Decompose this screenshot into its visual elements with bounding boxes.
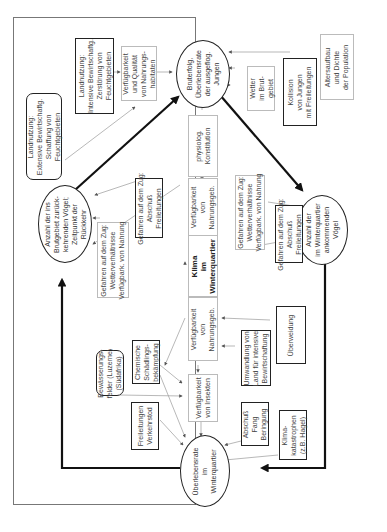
box-land-extensive: Landnutzung: Extensive Bewirtschaftg. Sc… [26, 93, 62, 180]
arriving-label: Anzahl der im Winterquartier ankommenden… [304, 203, 340, 256]
breeding-label: Bruterfolg, Überlebensrate der ausgeflog… [185, 50, 221, 98]
land-conversion-label: Umwandlung von Land für intensive Bewirt… [243, 330, 270, 385]
box-collision: Kollision von Jungen mit Freileitungen [283, 58, 317, 126]
migration-danger-weather-2-label: Gefahren auf dem Zug: Wetterverhältnisse… [237, 174, 264, 252]
box-migration-danger-shoot-2: Gefahren auf dem Zug: Abschuß Freileitun… [275, 205, 303, 263]
box-migration-danger-weather-1: Gefahren auf dem Zug: Wetterverhältnisse… [97, 222, 129, 298]
box-weather-breeding: Wetter im Brut- gebiet [247, 66, 275, 111]
age-structure-label: Altersaufbau und Dichte der Population [324, 44, 351, 89]
box-insects: Verfügbarkeit von Insekten [188, 374, 218, 422]
returning-label: Anzahl der ins Brutgebiet zurück- kehren… [43, 196, 88, 253]
overgrazing-label: Überweidung [287, 314, 296, 355]
ellipse-arriving-birds: Anzahl der im Winterquartier ankommenden… [296, 195, 348, 265]
migration-danger-shoot-1-label: Gefahren auf dem Zug: Abschuß Freileitun… [136, 172, 163, 244]
box-irrigation: Bewässerungs- felder (Luzerne) (Südafrik… [96, 350, 124, 396]
irrigation-label: Bewässerungs- felder (Luzerne) (Südafrik… [97, 348, 124, 397]
box-food-availability-1: Verfügbarkeit von Nahrungsgeb. [188, 178, 218, 236]
migration-danger-weather-1-label: Gefahren auf dem Zug: Wetterverhältnisse… [100, 221, 127, 299]
land-extensive-label: Landnutzung: Extensive Bewirtschaftg. Sc… [26, 98, 62, 174]
insects-label: Verfügbarkeit von Insekten [194, 377, 212, 418]
box-migration-danger-weather-2: Gefahren auf dem Zug: Wetterverhältnisse… [235, 175, 265, 250]
box-physiology: physiolog. Konstitution [188, 115, 218, 177]
food-habitats-label: Verfügbarkeit und Qualität von Nahrungs-… [121, 51, 157, 97]
weather-breeding-label: Wetter im Brut- gebiet [248, 76, 275, 101]
box-land-intensive: Landnutzung: Intensive Bewirtschaftg. Ze… [75, 38, 114, 114]
survival-label: Überlebensrate im Winterquartier [192, 447, 219, 495]
box-land-conversion: Umwandlung von Land für intensive Bewirt… [241, 330, 271, 386]
box-pesticides: Chemische Schädlings- bekämpfung [132, 340, 160, 384]
box-age-structure: Altersaufbau und Dichte der Population [320, 34, 354, 100]
box-overgrazing: Überweidung [276, 306, 306, 364]
power-lines-traffic-label: Freileitungen Verkehrstod [136, 406, 154, 446]
food-availability-1-label: Verfügbarkeit von Nahrungsgeb. [190, 185, 217, 229]
box-food-habitats: Verfügbarkeit und Qualität von Nahrungs-… [121, 46, 157, 101]
climate-winter-label: Klima im Winterquartier [190, 239, 217, 294]
migration-danger-shoot-2-label: Gefahren auf dem Zug: Abschuß Freileitun… [276, 198, 303, 270]
ellipse-breeding-success: Bruterfolg, Überlebensrate der ausgeflog… [176, 40, 230, 108]
pesticides-label: Chemische Schädlings- bekämpfung [133, 343, 160, 382]
box-climate-winter: Klima im Winterquartier [188, 235, 218, 297]
physiology-label: physiolog. Konstitution [194, 128, 212, 165]
climate-catastrophe-label: Klima- katastrophen (z.B. Hagel) [280, 415, 307, 455]
food-availability-2-label: Verfügbarkeit von Nahrungsgeb. [190, 307, 217, 351]
box-migration-danger-shoot-1: Gefahren auf dem Zug: Abschuß Freileitun… [135, 178, 163, 238]
ellipse-returning-birds: Anzahl der ins Brutgebiet zurück- kehren… [38, 185, 92, 263]
land-intensive-label: Landnutzung: Intensive Bewirtschaftg. Ze… [77, 39, 113, 113]
collision-label: Kollision von Jungen mit Freileitungen [287, 66, 314, 118]
box-food-availability-2: Verfügbarkeit von Nahrungsgeb. [188, 297, 218, 361]
box-climate-catastrophe: Klima- katastrophen (z.B. Hagel) [279, 410, 307, 460]
hunting-label: Abschuß Fang Beringung [242, 408, 269, 440]
box-power-lines-traffic: Freileitungen Verkehrstod [131, 402, 159, 450]
box-hunting: Abschuß Fang Beringung [241, 402, 269, 446]
ellipse-winter-survival: Überlebensrate im Winterquartier [180, 435, 230, 507]
